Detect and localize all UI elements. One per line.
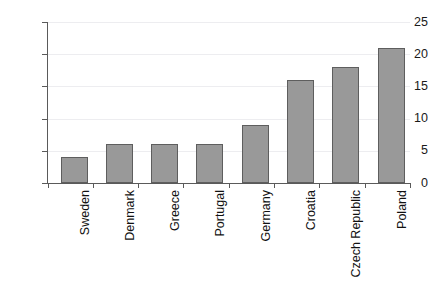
x-axis-labels: Sweden Denmark Greece Portugal Germany C… xyxy=(48,190,410,290)
x-tick-label-text: Portugal xyxy=(214,190,227,237)
x-tick-mark-7 xyxy=(365,183,366,188)
x-tick-mark-3 xyxy=(183,183,184,188)
y-tick-mark-0 xyxy=(42,183,47,184)
y-tick-mark-15 xyxy=(42,86,47,87)
x-tick-label-text: Germany xyxy=(260,190,273,241)
bar-portugal[interactable] xyxy=(196,144,223,183)
x-tick-label-text: Croatia xyxy=(305,190,318,230)
x-tick-mark-2 xyxy=(138,183,139,188)
x-tick-mark-8 xyxy=(410,183,411,188)
x-tick-mark-4 xyxy=(229,183,230,188)
x-tick-mark-5 xyxy=(274,183,275,188)
bar-sweden[interactable] xyxy=(61,157,88,183)
bar-poland[interactable] xyxy=(378,48,405,183)
bars-layer xyxy=(48,22,410,183)
x-tick-label-portugal: Portugal xyxy=(214,190,227,237)
x-tick-label-text: Czech Republic xyxy=(350,190,363,278)
x-tick-mark-1 xyxy=(93,183,94,188)
y-tick-mark-5 xyxy=(42,151,47,152)
x-tick-label-croatia: Croatia xyxy=(305,190,318,230)
x-tick-label-text: Denmark xyxy=(124,190,137,241)
bar-chart: 25 20 15 10 5 0 Sweden Denmark Greece Po… xyxy=(0,0,428,293)
y-tick-mark-20 xyxy=(42,54,47,55)
x-tick-mark-6 xyxy=(319,183,320,188)
bar-denmark[interactable] xyxy=(106,144,133,183)
x-tick-label-text: Poland xyxy=(396,190,409,229)
y-tick-mark-10 xyxy=(42,119,47,120)
x-tick-mark-0 xyxy=(48,183,49,188)
x-tick-label-poland: Poland xyxy=(396,190,409,229)
bar-czech-republic[interactable] xyxy=(332,67,359,183)
x-tick-label-text: Sweden xyxy=(79,190,92,235)
bar-germany[interactable] xyxy=(242,125,269,183)
x-tick-label-denmark: Denmark xyxy=(124,190,137,241)
bar-greece[interactable] xyxy=(151,144,178,183)
x-tick-label-text: Greece xyxy=(169,190,182,231)
x-tick-label-sweden: Sweden xyxy=(79,190,92,235)
y-tick-mark-25 xyxy=(42,22,47,23)
bar-croatia[interactable] xyxy=(287,80,314,183)
x-tick-label-germany: Germany xyxy=(260,190,273,241)
x-tick-label-czech-republic: Czech Republic xyxy=(350,190,363,278)
x-tick-label-greece: Greece xyxy=(169,190,182,231)
